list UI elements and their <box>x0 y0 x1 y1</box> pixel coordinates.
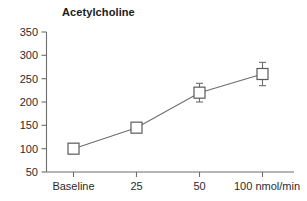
y-axis-tick-labels: 50 100 150 200 250 300 350 <box>20 26 38 178</box>
y-tick-label-300: 300 <box>20 49 38 61</box>
y-tick-label-150: 150 <box>20 119 38 131</box>
x-tick-label-50: 50 <box>193 180 205 192</box>
y-tick-label-50: 50 <box>26 166 38 178</box>
series-line-acetylcholine <box>74 74 263 149</box>
y-tick-label-250: 250 <box>20 73 38 85</box>
y-tick-label-350: 350 <box>20 26 38 38</box>
x-tick-label-100: 100 nmol/min <box>234 180 300 192</box>
x-tick-label-25: 25 <box>130 180 142 192</box>
y-axis-ticks <box>42 32 47 172</box>
chart-plot-area: 50 100 150 200 250 300 350 Baseline 25 5… <box>0 0 307 201</box>
y-tick-label-200: 200 <box>20 96 38 108</box>
x-tick-label-baseline: Baseline <box>52 180 94 192</box>
data-point-marker <box>194 87 205 98</box>
data-point-marker <box>68 143 79 154</box>
chart-figure: Acetylcholine 50 100 150 200 250 300 350 <box>0 0 307 201</box>
data-point-marker <box>257 69 268 80</box>
y-tick-label-100: 100 <box>20 143 38 155</box>
x-axis-tick-labels: Baseline 25 50 100 nmol/min <box>52 180 300 192</box>
data-point-marker <box>131 122 142 133</box>
x-axis-ticks <box>74 172 263 177</box>
